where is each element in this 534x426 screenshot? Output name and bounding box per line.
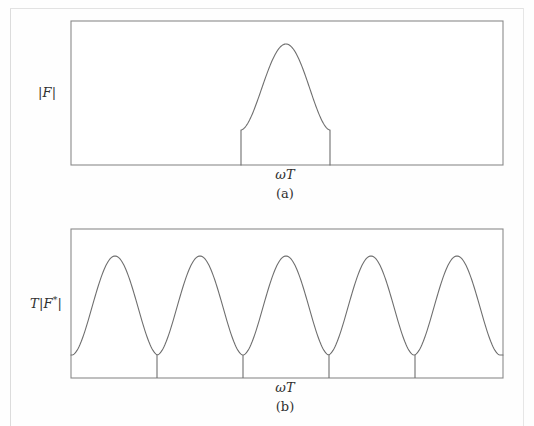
panel-b-caption: (b) xyxy=(255,399,315,414)
panel-b-ylabel-t: T xyxy=(30,296,39,311)
panel-a-ylabel: |F| xyxy=(38,85,56,100)
panel-b-ylabel-symbol: F xyxy=(43,296,52,311)
panel-a-ylabel-symbol: F xyxy=(43,85,52,100)
panel-b-xlabel-t: T xyxy=(286,380,295,395)
panel-b-ylabel: T|F*| xyxy=(30,294,62,311)
panel-a-xlabel: ωT xyxy=(255,167,315,182)
figure-panel-b: T|F*| ωT (b) xyxy=(0,208,534,426)
panel-a-frame xyxy=(71,21,503,165)
panel-a-xlabel-t: T xyxy=(286,167,295,182)
panel-b-ylabel-bar-right: | xyxy=(58,296,63,311)
figure-panel-a: |F| ωT (a) xyxy=(0,0,534,208)
figure-page: |F| ωT (a) T|F*| ωT (b) xyxy=(0,0,534,426)
panel-a-ylabel-bar-right: | xyxy=(52,85,57,100)
panel-a-caption: (a) xyxy=(255,186,315,201)
panel-a-xlabel-omega: ω xyxy=(275,167,286,182)
panel-b-xlabel: ωT xyxy=(255,380,315,395)
panel-b-frame xyxy=(71,229,503,378)
panel-b-xlabel-omega: ω xyxy=(275,380,286,395)
